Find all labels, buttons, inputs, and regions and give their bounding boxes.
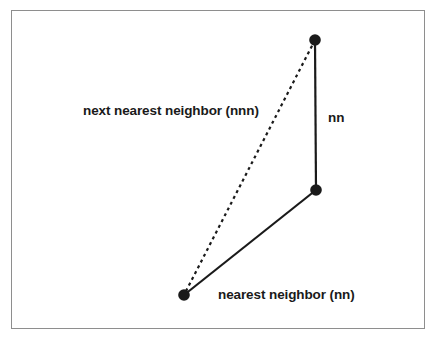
nn-vertical-edge xyxy=(315,40,316,190)
node-bottom-left xyxy=(178,289,190,301)
diagram-canvas: next nearest neighbor (nnn) nn nearest n… xyxy=(0,0,437,342)
next-nearest-neighbor-label: next nearest neighbor (nnn) xyxy=(83,104,259,118)
node-top xyxy=(309,34,321,46)
nn-diagonal-edge xyxy=(184,190,316,295)
nnn-dashed-edge xyxy=(184,40,315,295)
node-middle xyxy=(310,184,322,196)
nearest-neighbor-short-label: nn xyxy=(328,111,344,125)
nearest-neighbor-label: nearest neighbor (nn) xyxy=(218,288,355,302)
